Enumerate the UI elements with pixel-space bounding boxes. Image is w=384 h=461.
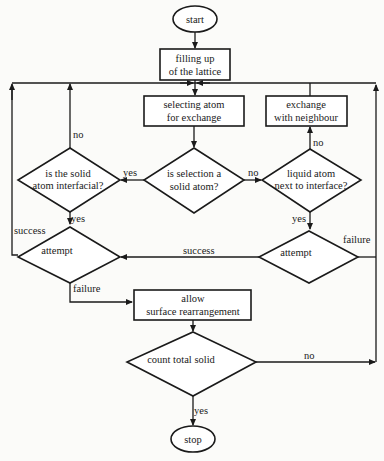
node-interfacial: is the solid atom interfacial? (18, 148, 120, 212)
label-count-yes: yes (194, 405, 208, 416)
node-count-label: count total solid (147, 354, 215, 365)
label-liquid-yes: yes (292, 213, 306, 224)
node-attempt-right-label: attempt (280, 247, 312, 258)
flowchart-canvas: start filling up of the lattice selectin… (0, 0, 384, 461)
label-attempt-right-success: success (183, 245, 215, 256)
node-exchange: exchange with neighbour (266, 96, 347, 126)
node-liquid: liquid atom next to interface? (262, 149, 361, 212)
node-liquid-line2: next to interface? (275, 180, 348, 191)
flowchart-svg: start filling up of the lattice selectin… (0, 0, 384, 461)
node-rearrange-line2: surface rearrangement (146, 306, 240, 317)
node-start-label: start (186, 14, 204, 25)
label-is-solid-yes: yes (123, 167, 137, 178)
node-rearrange: allow surface rearrangement (134, 290, 251, 320)
node-select-line2: for exchange (167, 112, 222, 123)
node-is-solid-line1: is selection a (167, 168, 222, 179)
node-attempt-left-label: attempt (41, 245, 73, 256)
node-rearrange-line1: allow (181, 293, 205, 304)
label-count-no: no (304, 350, 315, 361)
node-fill: filling up of the lattice (160, 49, 230, 80)
node-liquid-line1: liquid atom (287, 168, 335, 179)
node-fill-line2: of the lattice (169, 66, 222, 77)
label-liquid-no: no (313, 137, 324, 148)
node-stop-label: stop (184, 434, 202, 445)
label-attempt-left-success: success (14, 225, 46, 236)
node-count: count total solid (127, 332, 256, 396)
node-exchange-line2: with neighbour (274, 112, 338, 123)
node-exchange-line1: exchange (286, 99, 326, 110)
node-start: start (173, 6, 217, 32)
node-stop: stop (171, 426, 215, 452)
label-interfacial-no: no (73, 129, 84, 140)
node-interfacial-line1: is the solid (45, 168, 91, 179)
node-is-solid-line2: solid atom? (170, 181, 219, 192)
label-attempt-left-failure: failure (73, 283, 101, 294)
label-interfacial-yes: yes (71, 213, 85, 224)
node-fill-line1: filling up (176, 53, 215, 64)
node-interfacial-line2: atom interfacial? (33, 180, 104, 191)
node-select-line1: selecting atom (164, 99, 225, 110)
label-is-solid-no: no (248, 167, 259, 178)
node-select: selecting atom for exchange (144, 96, 244, 126)
node-is-solid: is selection a solid atom? (144, 148, 244, 213)
label-attempt-right-failure: failure (343, 234, 371, 245)
